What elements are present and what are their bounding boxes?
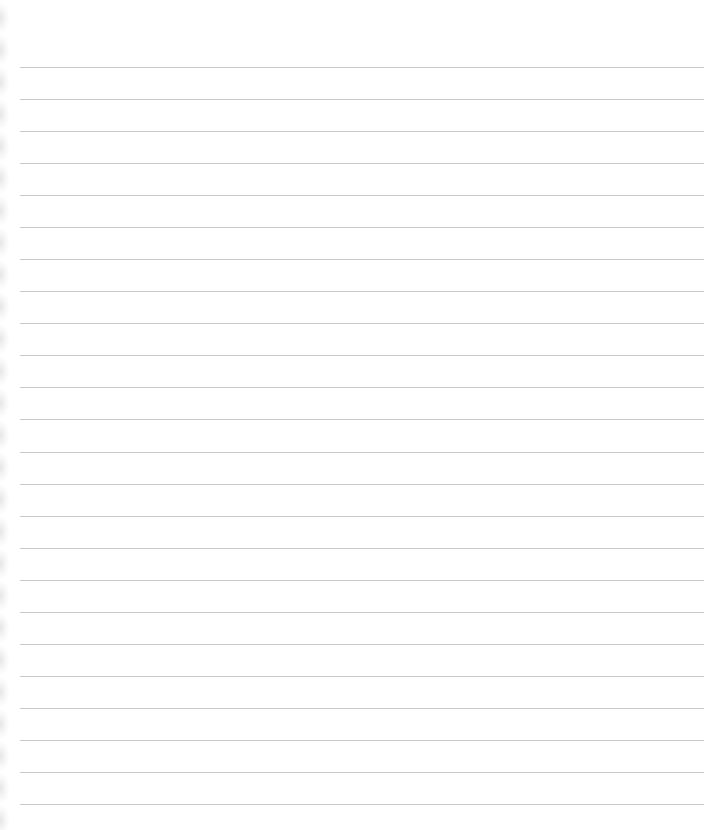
ruled-line <box>20 131 704 132</box>
ruled-line <box>20 484 704 485</box>
ruled-line <box>20 195 704 196</box>
ruled-line <box>20 387 704 388</box>
ruled-line <box>20 67 704 68</box>
ruled-line <box>20 291 704 292</box>
ruled-line <box>20 227 704 228</box>
ruled-line <box>20 804 704 805</box>
ruled-line <box>20 323 704 324</box>
torn-perforated-edge <box>0 0 22 830</box>
ruled-line <box>20 612 704 613</box>
ruled-line <box>20 580 704 581</box>
ruled-line <box>20 452 704 453</box>
ruled-line <box>20 644 704 645</box>
ruled-line <box>20 259 704 260</box>
ruled-line <box>20 516 704 517</box>
ruled-line <box>20 772 704 773</box>
ruled-line <box>20 708 704 709</box>
ruled-line <box>20 740 704 741</box>
ruled-line <box>20 99 704 100</box>
ruled-line <box>20 419 704 420</box>
ruled-line <box>20 548 704 549</box>
ruled-line <box>20 355 704 356</box>
lined-paper-sheet <box>0 0 716 830</box>
ruled-line <box>20 676 704 677</box>
ruled-line <box>20 163 704 164</box>
